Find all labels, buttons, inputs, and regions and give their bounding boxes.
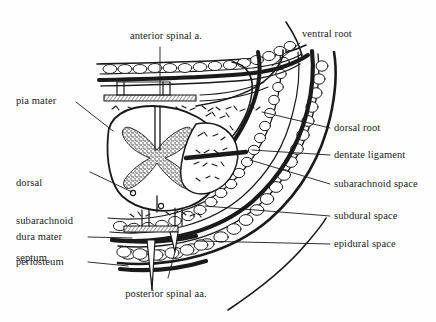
label-epidural-space: epidural space — [334, 238, 396, 251]
leader-epidural-space — [196, 241, 330, 244]
label-subdural-space: subdural space — [334, 210, 398, 223]
leader-dorsal-root — [262, 112, 330, 128]
leader-dura-mater — [88, 237, 132, 238]
bottom-arachnoid-strip — [124, 226, 178, 232]
anatomical-figure: anterior spinal a. ventral root pia mate… — [0, 0, 436, 322]
label-ventral-root: ventral root — [302, 28, 352, 41]
label-periosteum: periosteum — [16, 256, 64, 269]
label-dentate-ligament: dentate ligament — [334, 149, 405, 162]
label-dura-mater: dura mater — [16, 231, 62, 244]
drawing-ink — [76, 22, 336, 310]
label-posterior-spinal-arteries: posterior spinal aa. — [98, 288, 234, 301]
label-subarachnoid-space: subarachnoid space — [334, 178, 418, 191]
vertebral-body-outline-curve — [228, 218, 326, 310]
leader-pia-mater — [76, 102, 113, 131]
label-anterior-spinal-artery: anterior spinal a. — [110, 30, 222, 43]
label-pia-mater: pia mater — [16, 95, 56, 108]
leader-subdural-space — [205, 206, 330, 216]
label-dorsal-subarachnoid-septum-line1: dorsal — [16, 177, 73, 190]
label-dorsal-subarachnoid-septum-line2: subarachnoid — [16, 215, 73, 228]
label-dorsal-root: dorsal root — [334, 122, 380, 135]
septum-attachment-node-lower — [158, 203, 163, 208]
label-dorsal-subarachnoid-septum: dorsal subarachnoid septum — [16, 152, 73, 290]
